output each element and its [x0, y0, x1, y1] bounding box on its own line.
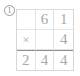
grid-cell-r1c2-value: 6	[41, 12, 49, 27]
grid-cell-r2c3[interactable]: 4	[54, 30, 73, 50]
problem-number-badge: 1	[4, 5, 15, 16]
grid-cell-r2c2[interactable]	[36, 30, 55, 50]
grid-cell-r3c2[interactable]: 4	[36, 50, 55, 70]
grid-cell-r1c3[interactable]: 1	[54, 10, 73, 30]
grid-cell-r3c1[interactable]: 2	[17, 50, 36, 70]
grid-cell-r2c1-operator[interactable]: ×	[17, 30, 36, 50]
worksheet-problem: 1 6 1 × 4 2 4 4	[0, 0, 80, 76]
grid-cell-r3c3-value: 4	[60, 53, 68, 68]
multiply-icon: ×	[22, 33, 29, 46]
grid-cell-r2c3-value: 4	[60, 32, 68, 47]
grid-cell-r3c1-value: 2	[22, 53, 30, 68]
grid-cell-r1c1[interactable]	[17, 10, 36, 30]
grid-cell-r1c3-value: 1	[60, 12, 68, 27]
grid-cell-r3c3[interactable]: 4	[54, 50, 73, 70]
calculation-grid: 6 1 × 4 2 4 4	[16, 9, 74, 71]
grid-cell-r1c2[interactable]: 6	[36, 10, 55, 30]
grid-cell-r3c2-value: 4	[41, 53, 49, 68]
